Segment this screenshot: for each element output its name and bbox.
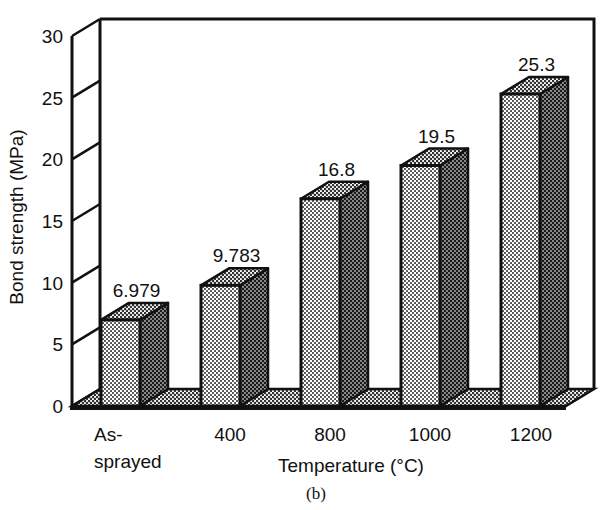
x-tick-label: 800 [314, 424, 346, 445]
x-tick-label: sprayed [94, 451, 162, 472]
bar-value-label: 9.783 [213, 245, 261, 266]
x-axis-label: Temperature (°C) [278, 455, 424, 476]
y-tick-label: 0 [52, 396, 63, 417]
bar-value-label: 19.5 [418, 126, 455, 147]
bar: 16.8 [301, 159, 368, 406]
bar-value-label: 25.3 [518, 54, 555, 75]
y-axis: 051015202530 [42, 19, 100, 417]
bar: 25.3 [501, 54, 568, 406]
x-tick-label: 400 [214, 424, 246, 445]
bar-value-label: 6.979 [113, 280, 161, 301]
y-tick-label: 30 [42, 26, 63, 47]
bar-value-label: 16.8 [318, 159, 355, 180]
y-tick-label: 15 [42, 211, 63, 232]
x-tick-label: 1000 [409, 424, 451, 445]
y-tick-label: 20 [42, 149, 63, 170]
bar: 19.5 [401, 126, 468, 407]
figure-caption: (b) [306, 484, 326, 503]
bar-series: 6.9799.78316.819.525.3 [101, 54, 568, 406]
y-tick-label: 25 [42, 88, 63, 109]
bar: 6.979 [101, 280, 168, 406]
x-tick-label: 1200 [510, 424, 552, 445]
y-tick-label: 10 [42, 273, 63, 294]
y-tick-label: 5 [52, 334, 63, 355]
bar: 9.783 [201, 245, 268, 406]
x-tick-label: As- [94, 424, 123, 445]
bar-chart: 051015202530 6.9799.78316.819.525.3 As-s… [0, 0, 602, 510]
y-axis-label: Bond strength (MPa) [6, 129, 27, 304]
